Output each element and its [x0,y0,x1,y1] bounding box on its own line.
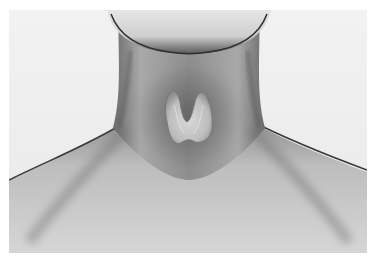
anatomy-image [9,10,367,253]
